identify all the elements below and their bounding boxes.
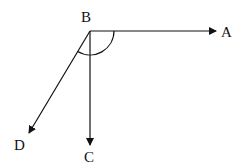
angle-diagram: B A C D — [0, 0, 244, 167]
label-d: D — [14, 138, 25, 153]
label-a: A — [221, 25, 232, 40]
ray-bd — [29, 31, 90, 133]
label-b: B — [81, 10, 91, 25]
label-c: C — [84, 150, 94, 165]
diagram-canvas — [0, 0, 244, 167]
